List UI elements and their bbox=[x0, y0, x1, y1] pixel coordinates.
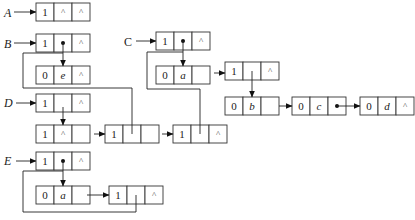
svg-text:a: a bbox=[180, 69, 186, 81]
svg-text:0: 0 bbox=[42, 189, 48, 201]
svg-text:1: 1 bbox=[42, 155, 48, 167]
svg-text:0: 0 bbox=[366, 100, 372, 112]
node-c-d: 0 d ^ bbox=[360, 97, 414, 115]
svg-text:1: 1 bbox=[179, 128, 185, 140]
head-label-a: A bbox=[3, 6, 12, 20]
svg-text:0: 0 bbox=[231, 100, 237, 112]
node-c-b: 0 b bbox=[225, 97, 279, 115]
svg-text:0: 0 bbox=[162, 69, 168, 81]
svg-text:c: c bbox=[317, 100, 322, 112]
head-label-e: E bbox=[3, 154, 12, 168]
node-a0: 1 ^ ^ bbox=[36, 3, 90, 21]
node-b-e: 0 e ^ bbox=[36, 66, 90, 84]
head-label-b: B bbox=[4, 37, 12, 51]
svg-text:a: a bbox=[60, 189, 66, 201]
svg-text:0: 0 bbox=[298, 100, 304, 112]
svg-text:1: 1 bbox=[42, 128, 48, 140]
head-label-c: C bbox=[124, 35, 132, 49]
svg-text:1: 1 bbox=[162, 35, 168, 47]
node-c-a: 0 a bbox=[156, 66, 210, 84]
node-d1: 1 ^ bbox=[36, 125, 90, 143]
svg-text:0: 0 bbox=[42, 69, 48, 81]
svg-text:1: 1 bbox=[42, 6, 48, 18]
svg-text:e: e bbox=[61, 69, 66, 81]
head-label-d: D bbox=[3, 96, 13, 110]
wire-d3-to-c bbox=[147, 52, 200, 134]
svg-text:b: b bbox=[249, 100, 255, 112]
svg-text:1: 1 bbox=[111, 128, 117, 140]
svg-text:1: 1 bbox=[42, 37, 48, 49]
svg-text:1: 1 bbox=[115, 189, 121, 201]
svg-text:1: 1 bbox=[231, 65, 237, 77]
generalized-list-diagram: A B C D E 1 ^ ^ 1 ^ 0 e ^ 1 ^ 0 a bbox=[0, 0, 415, 220]
wire-d2-to-b bbox=[23, 53, 132, 134]
svg-text:1: 1 bbox=[42, 97, 48, 109]
node-e-a: 0 a bbox=[36, 186, 90, 204]
svg-text:d: d bbox=[384, 100, 390, 112]
